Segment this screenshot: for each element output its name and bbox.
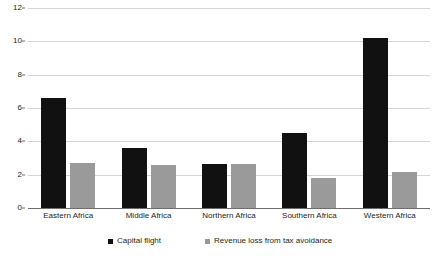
bar-capital-flight xyxy=(122,148,147,208)
bar-group xyxy=(202,8,256,208)
bar-capital-flight xyxy=(282,133,307,208)
legend-label: Revenue loss from tax avoidance xyxy=(214,236,332,246)
y-axis: 024681012 xyxy=(0,8,22,208)
bar-revenue-loss xyxy=(151,165,176,208)
y-axis-tick xyxy=(22,8,25,9)
x-axis-tick-label: Southern Africa xyxy=(282,211,337,221)
x-axis-tick-label: Northern Africa xyxy=(202,211,255,221)
bar-group xyxy=(122,8,176,208)
y-axis-tick xyxy=(22,208,25,209)
bar-revenue-loss xyxy=(231,164,256,208)
bar-revenue-loss xyxy=(311,178,336,208)
x-axis-labels: Eastern AfricaMiddle AfricaNorthern Afri… xyxy=(28,211,430,225)
y-axis-tick-label: 10 xyxy=(13,37,22,45)
x-axis-tick-label: Middle Africa xyxy=(126,211,172,221)
legend-label: Capital flight xyxy=(117,236,161,246)
bar-capital-flight xyxy=(363,38,388,208)
legend-item-capital-flight[interactable]: Capital flight xyxy=(108,236,161,246)
axis-baseline xyxy=(28,208,430,209)
bar-chart: 024681012 Eastern AfricaMiddle AfricaNor… xyxy=(0,0,445,256)
legend-swatch-icon xyxy=(108,239,113,244)
x-axis-tick-label: Eastern Africa xyxy=(43,211,93,221)
bar-group xyxy=(41,8,95,208)
y-axis-tick xyxy=(22,108,25,109)
legend-item-revenue-loss[interactable]: Revenue loss from tax avoidance xyxy=(205,236,332,246)
bar-group xyxy=(282,8,336,208)
legend-swatch-icon xyxy=(205,239,210,244)
chart-legend: Capital flightRevenue loss from tax avoi… xyxy=(0,236,445,250)
plot-area xyxy=(28,8,430,208)
bar-revenue-loss xyxy=(70,163,95,208)
bar-capital-flight xyxy=(202,164,227,208)
y-axis-tick xyxy=(22,174,25,175)
y-axis-tick xyxy=(22,41,25,42)
y-axis-tick xyxy=(22,74,25,75)
x-axis-tick-label: Western Africa xyxy=(364,211,416,221)
y-axis-tick-label: 12 xyxy=(13,4,22,12)
bar-revenue-loss xyxy=(392,172,417,208)
bar-group xyxy=(363,8,417,208)
y-axis-tick xyxy=(22,141,25,142)
bar-groups xyxy=(28,8,430,208)
bar-capital-flight xyxy=(41,98,66,208)
